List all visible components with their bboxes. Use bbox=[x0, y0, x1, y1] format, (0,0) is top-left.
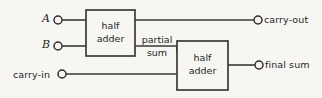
label-output-final-sum: final sum bbox=[265, 59, 310, 70]
label-output-carry-out: carry-out bbox=[264, 14, 308, 25]
signal-label-partial-sum-line1: partial bbox=[136, 34, 178, 46]
input-terminal-b bbox=[54, 42, 62, 50]
output-terminal-final-sum bbox=[255, 61, 263, 69]
input-terminal-carry-in bbox=[58, 70, 66, 78]
block-label-half-adder-1-line2: adder bbox=[86, 33, 135, 45]
block-label-half-adder-2-line1: half bbox=[177, 52, 228, 64]
label-input-a: A bbox=[42, 13, 50, 24]
input-terminal-a bbox=[54, 16, 62, 24]
label-input-carry-in: carry-in bbox=[13, 69, 50, 80]
block-label-half-adder-2-line2: adder bbox=[177, 65, 228, 77]
label-input-b: B bbox=[42, 39, 50, 50]
full-adder-diagram: A B carry-in carry-out final sum half ad… bbox=[0, 0, 322, 98]
block-label-half-adder-1-line1: half bbox=[86, 20, 135, 32]
signal-label-partial-sum-line2: sum bbox=[136, 47, 178, 59]
output-terminal-carry-out bbox=[254, 16, 262, 24]
